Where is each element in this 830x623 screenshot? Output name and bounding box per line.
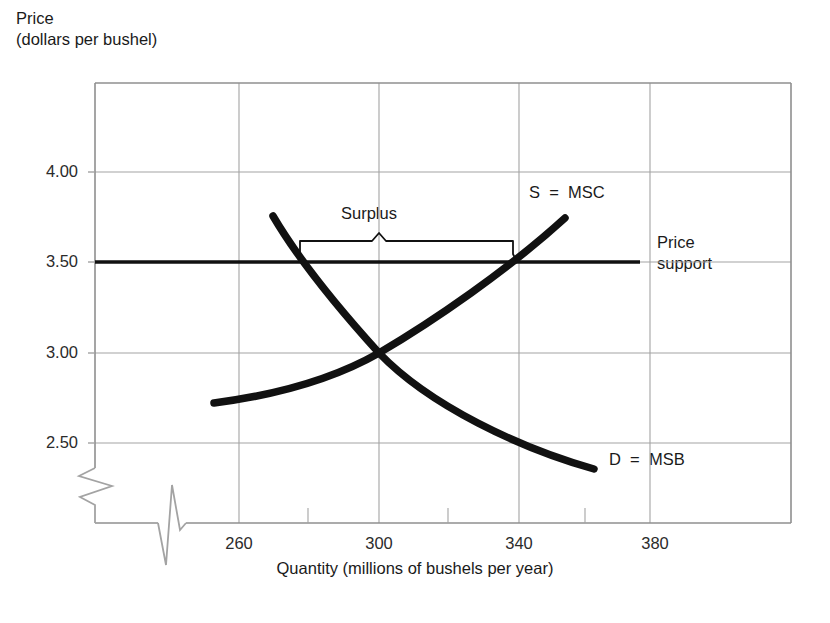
chart-figure: Price(dollars per bushel) 4.00 3.50 3.00…	[0, 0, 830, 623]
x-axis-break-zigzag	[158, 485, 186, 565]
surplus-bracket	[300, 233, 517, 262]
x-axis-minor-ticks	[308, 508, 585, 523]
x-break-path	[158, 485, 186, 565]
demand-curve	[273, 216, 594, 469]
plot-frame	[95, 83, 791, 523]
y-break-path	[79, 468, 112, 523]
y-axis-tick-marks	[88, 172, 95, 443]
y-axis-break-zigzag	[79, 468, 112, 523]
plot-area	[0, 0, 830, 623]
grid-lines	[95, 83, 791, 523]
